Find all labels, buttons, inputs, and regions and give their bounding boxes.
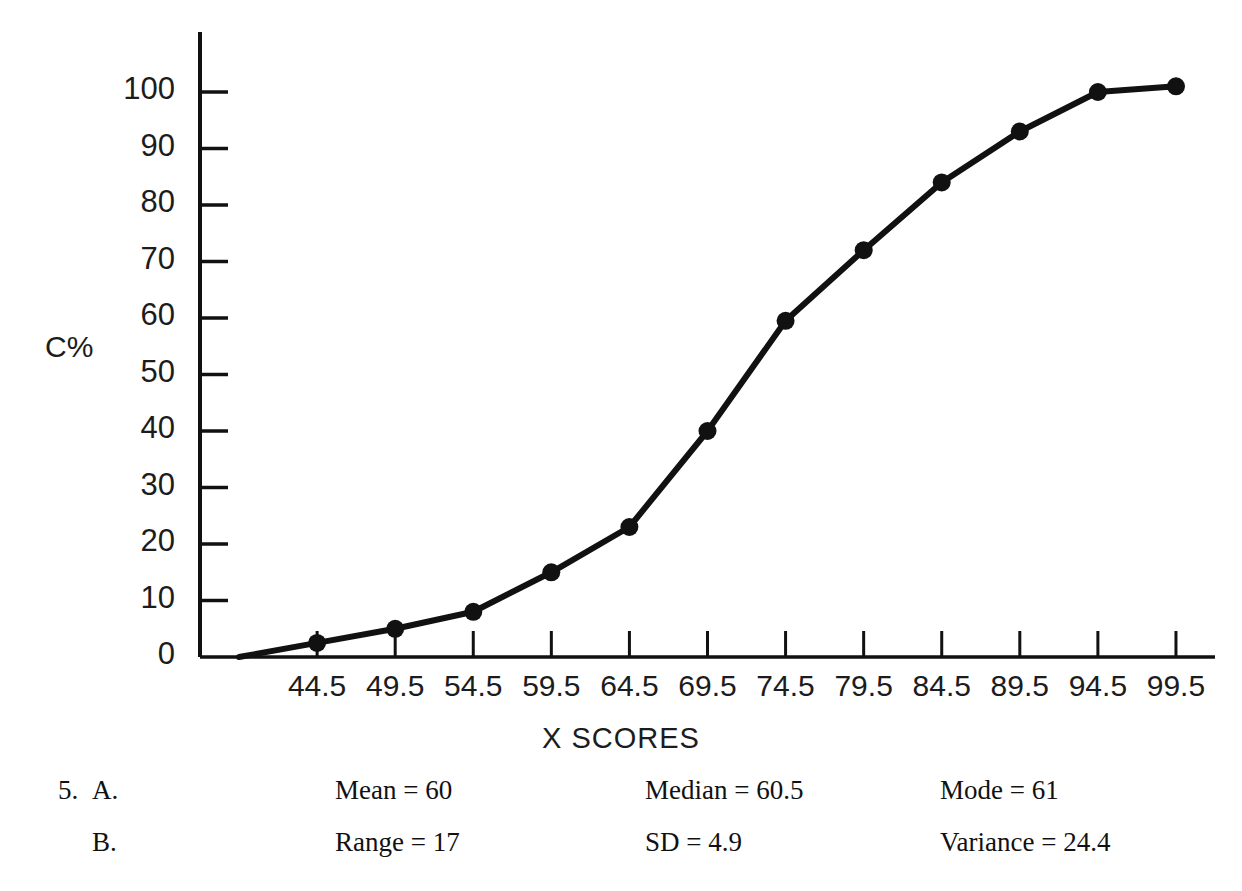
y-axis-tick-label: 60: [105, 297, 175, 333]
data-point-marker: [386, 620, 404, 638]
x-axis-tick-label: 89.5: [975, 669, 1065, 703]
x-axis-tick-label: 84.5: [897, 669, 987, 703]
data-point-marker: [933, 173, 951, 191]
data-line: [239, 86, 1176, 657]
note-range: Range = 17: [335, 827, 460, 858]
data-point-marker: [1167, 77, 1185, 95]
x-axis-tick-label: 44.5: [272, 669, 362, 703]
note-median: Median = 60.5: [645, 775, 803, 806]
x-axis-tick-label: 94.5: [1053, 669, 1143, 703]
x-axis-tick-label: 74.5: [741, 669, 831, 703]
y-axis-label: C%: [45, 330, 93, 364]
note-row: 5. A. Mean = 60 Median = 60.5 Mode = 61: [0, 775, 1242, 827]
cumulative-percent-line-chart: [0, 0, 1242, 720]
note-sd: SD = 4.9: [645, 827, 742, 858]
y-axis-ticks: [200, 92, 228, 601]
x-axis-ticks: [317, 631, 1176, 657]
x-axis-tick-label: 69.5: [663, 669, 753, 703]
note-letter: B.: [92, 827, 117, 858]
x-axis-tick-label: 49.5: [350, 669, 440, 703]
note-mean: Mean = 60: [335, 775, 452, 806]
chart-area: C% 0102030405060708090100 44.549.554.559…: [0, 0, 1242, 720]
data-point-marker: [464, 603, 482, 621]
x-axis-tick-label: 64.5: [584, 669, 674, 703]
y-axis-tick-label: 50: [105, 354, 175, 390]
y-axis-tick-label: 100: [105, 71, 175, 107]
data-point-marker: [620, 518, 638, 536]
y-axis-tick-label: 70: [105, 241, 175, 277]
data-point-marker: [1011, 123, 1029, 141]
data-point-marker: [542, 563, 560, 581]
axis-lines: [200, 32, 1215, 657]
x-axis-tick-label: 79.5: [819, 669, 909, 703]
x-axis-tick-label: 59.5: [506, 669, 596, 703]
y-axis-tick-label: 20: [105, 523, 175, 559]
note-letter: A.: [92, 775, 118, 806]
figure-container: C% 0102030405060708090100 44.549.554.559…: [0, 0, 1242, 891]
data-point-markers: [308, 77, 1185, 652]
x-axis-label: X SCORES: [0, 722, 1242, 755]
y-axis-tick-label: 0: [105, 636, 175, 672]
data-point-marker: [308, 634, 326, 652]
x-axis-tick-label: 99.5: [1131, 669, 1221, 703]
y-axis-tick-label: 90: [105, 128, 175, 164]
note-mode: Mode = 61: [940, 775, 1059, 806]
statistics-notes: 5. A. Mean = 60 Median = 60.5 Mode = 61 …: [0, 775, 1242, 879]
data-point-marker: [777, 312, 795, 330]
data-point-marker: [855, 241, 873, 259]
y-axis-tick-label: 40: [105, 410, 175, 446]
note-index: 5.: [58, 775, 78, 806]
y-axis-tick-label: 30: [105, 467, 175, 503]
note-variance: Variance = 24.4: [940, 827, 1110, 858]
y-axis-tick-label: 80: [105, 184, 175, 220]
note-row: B. Range = 17 SD = 4.9 Variance = 24.4: [0, 827, 1242, 879]
data-point-marker: [699, 422, 717, 440]
y-axis-tick-label: 10: [105, 580, 175, 616]
data-point-marker: [1089, 83, 1107, 101]
x-axis-tick-label: 54.5: [428, 669, 518, 703]
